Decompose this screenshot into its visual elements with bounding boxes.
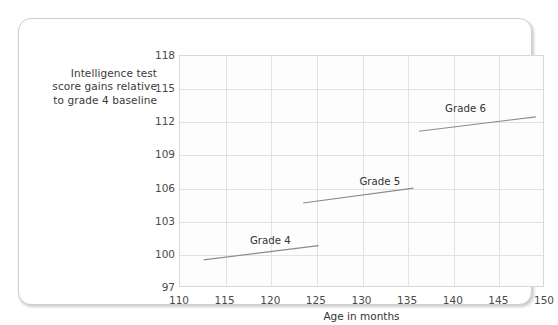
x-tick-label: 115: [205, 294, 245, 306]
y-tick-label: 97: [141, 281, 175, 293]
x-tick-label: 125: [296, 294, 336, 306]
series-line: [419, 117, 536, 131]
series-label: Grade 6: [445, 103, 486, 114]
series-line: [204, 246, 319, 260]
y-tick-label: 100: [141, 248, 175, 260]
series-label: Grade 4: [250, 234, 291, 245]
x-axis-tick-labels: 110115120125130135140145150: [179, 294, 544, 308]
x-tick-label: 140: [433, 294, 473, 306]
series-lines: [179, 55, 544, 287]
y-tick-label: 112: [141, 115, 175, 127]
x-tick-label: 110: [159, 294, 199, 306]
x-tick-label: 150: [524, 294, 558, 306]
chart-card: Intelligence test score gains relative t…: [18, 18, 532, 305]
x-tick-label: 145: [478, 294, 518, 306]
series-line: [303, 188, 413, 203]
x-tick-label: 135: [387, 294, 427, 306]
y-tick-label: 115: [141, 82, 175, 94]
series-layer: Grade 4Grade 5Grade 6: [179, 55, 544, 287]
y-tick-label: 106: [141, 182, 175, 194]
y-tick-label: 109: [141, 148, 175, 160]
x-axis-title: Age in months: [179, 310, 544, 322]
y-axis-tick-labels: 97100103106109112115118: [137, 55, 175, 287]
y-tick-label: 118: [141, 49, 175, 61]
x-tick-label: 120: [250, 294, 290, 306]
y-tick-label: 103: [141, 215, 175, 227]
series-label: Grade 5: [359, 175, 400, 186]
x-tick-label: 130: [342, 294, 382, 306]
